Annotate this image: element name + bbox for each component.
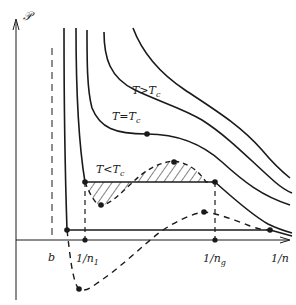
n1-axis-marker [82, 237, 87, 242]
lowest-plateau-left-marker [64, 227, 70, 233]
lowest-loop-max-marker [201, 209, 207, 215]
label-t-greater-tc: T>Tc [132, 84, 161, 99]
equal-area-region-upper [133, 161, 206, 182]
y-axis [13, 19, 19, 300]
vdw-loop-lowest [67, 212, 270, 290]
loop-min-marker [98, 202, 104, 208]
van-der-waals-diagram: 𝒫 1/n b T>Tc T=Tc T<Tc 1/n1 1/ng [0, 0, 296, 305]
n2-axis-marker [212, 237, 217, 242]
label-t-equal-tc: T=Tc [112, 110, 141, 125]
critical-point-marker [144, 131, 150, 137]
label-t-less-tc: T<Tc [96, 163, 125, 178]
isotherm-t-less-tc-right [215, 182, 292, 233]
lowest-loop-min-marker [76, 286, 82, 292]
n1-label: 1/n1 [76, 252, 99, 267]
n2-label: 1/ng [203, 252, 226, 267]
lowest-plateau-right-marker [267, 227, 273, 233]
y-axis-label: 𝒫 [23, 9, 35, 23]
isotherm-lowest-right [270, 230, 292, 236]
x-axis [16, 237, 290, 243]
x-axis-label: 1/n [271, 252, 289, 265]
b-label: b [48, 251, 55, 264]
loop-max-marker [171, 159, 177, 165]
isotherm-lowest-left [64, 28, 67, 230]
isotherm-t-less-tc-left [76, 28, 85, 182]
isotherm-high [133, 28, 290, 178]
